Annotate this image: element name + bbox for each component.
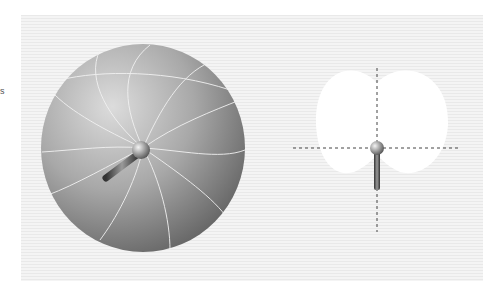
sphere-pattern [41,44,245,252]
cardioid-pattern [293,68,458,232]
polar-pattern-illustration [0,0,503,298]
